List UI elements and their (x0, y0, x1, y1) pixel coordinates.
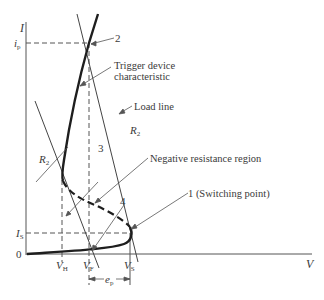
r2-left-sub: 2 (46, 159, 50, 167)
ep-sub: p (110, 279, 114, 287)
vs-label: VS (124, 260, 135, 273)
r2-left-label: R2 (39, 154, 49, 167)
vs-sub: S (131, 265, 135, 273)
ep-label: ep (105, 274, 113, 287)
trigger-line2: characteristic (114, 71, 175, 82)
v-axis-label: V (306, 258, 313, 270)
trigger-line1: Trigger device (114, 60, 175, 71)
point-3-label: 3 (98, 143, 104, 154)
is-sub: S (20, 233, 24, 241)
r2-right-main: R (130, 124, 137, 136)
trigger-curve-lower (27, 227, 132, 254)
r2-left-main: R (39, 153, 46, 165)
r2-right-label: R2 (130, 125, 140, 138)
vh-label: VH (56, 260, 68, 273)
trigger-curve-upper (62, 14, 98, 181)
vf-sub: F (90, 265, 94, 273)
vs-main: V (124, 259, 131, 271)
ip-sub: p (17, 43, 21, 51)
ip-label: ip (14, 38, 21, 51)
switching-point-label: 1 (Switching point) (188, 188, 270, 199)
origin-label: 0 (16, 249, 22, 260)
trigger-characteristic-label: Trigger device characteristic (114, 60, 175, 82)
is-label: IS (16, 228, 24, 241)
vf-main: V (83, 259, 90, 271)
trigger-device-diagram (0, 0, 324, 300)
i-axis-label: I (20, 22, 24, 34)
load-line-label: Load line (134, 101, 174, 112)
negative-resistance-label: Negative resistance region (150, 153, 261, 164)
r2-right-sub: 2 (137, 130, 141, 138)
vf-label: VF (83, 260, 94, 273)
point-2-label: 2 (115, 33, 121, 44)
vh-main: V (56, 259, 63, 271)
vh-sub: H (63, 265, 68, 273)
point-4-label: 4 (120, 196, 126, 207)
